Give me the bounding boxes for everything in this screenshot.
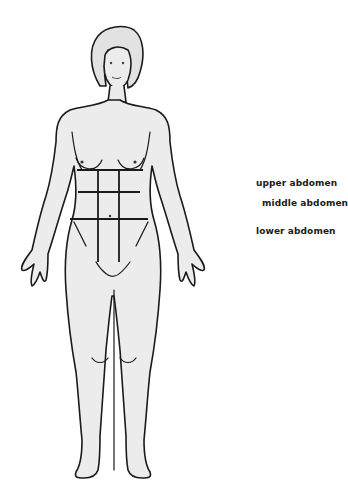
label-upper-abdomen: upper abdomen xyxy=(256,178,337,188)
label-lower-abdomen: lower abdomen xyxy=(256,226,336,236)
navel xyxy=(109,215,111,217)
nipple-right xyxy=(133,160,136,163)
nipple-left xyxy=(80,160,83,163)
face xyxy=(104,47,131,89)
eye-left xyxy=(110,62,112,64)
label-middle-abdomen: middle abdomen xyxy=(262,198,348,208)
eye-right xyxy=(122,62,124,64)
torso xyxy=(22,100,205,478)
